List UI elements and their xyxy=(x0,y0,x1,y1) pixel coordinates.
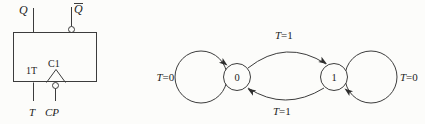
edge-trigger-triangle-icon xyxy=(47,70,66,83)
internal-t-label: 1T xyxy=(26,65,37,76)
internal-clock-label: C1 xyxy=(48,58,60,69)
state0-label: 0 xyxy=(234,72,239,83)
q-output-label: Q xyxy=(19,3,28,17)
cp-input-label: CP xyxy=(45,106,59,118)
qbar-output-label: Q xyxy=(74,2,83,16)
one-to-zero-cond: =1 xyxy=(279,105,291,117)
label-1-to-0: T =1 xyxy=(273,105,291,117)
label-0-to-1: T =1 xyxy=(275,29,293,41)
state-diagram: 0 1 T =0 T =0 T =1 T =1 xyxy=(156,29,418,118)
t-input-label: T xyxy=(29,106,36,118)
label-loop0: T =0 xyxy=(156,71,174,83)
arrowhead-1-to-0-icon xyxy=(246,86,256,96)
state1-label: 1 xyxy=(331,72,336,83)
qbar-inversion-bubble xyxy=(69,27,75,33)
loop1-cond: =0 xyxy=(406,71,418,83)
label-loop1: T =0 xyxy=(400,71,418,83)
arc-1-to-0 xyxy=(248,88,324,100)
self-loop-state0 xyxy=(175,51,227,103)
t-flipflop-figure: Q Q 1T C1 T CP 0 1 xyxy=(0,0,425,124)
t-flipflop-symbol: Q Q 1T C1 T CP xyxy=(14,2,97,118)
self-loop-state1 xyxy=(345,51,397,103)
arc-0-to-1 xyxy=(248,52,326,68)
zero-to-one-cond: =1 xyxy=(281,29,293,41)
loop0-cond: =0 xyxy=(163,71,175,83)
clock-inversion-bubble xyxy=(53,83,59,89)
diagram-canvas: Q Q 1T C1 T CP 0 1 xyxy=(0,0,425,124)
